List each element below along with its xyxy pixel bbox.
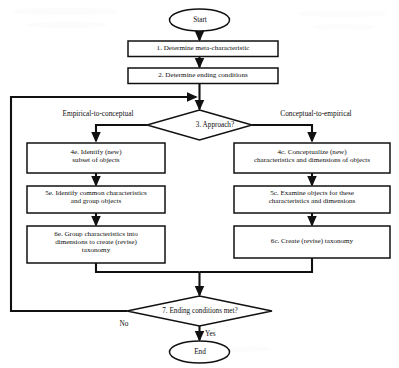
edge-approach-to-step4c	[252, 125, 312, 141]
process-step2-label: 2. Determine ending conditions	[128, 72, 278, 80]
edge-step6c-to-merge	[200, 258, 313, 272]
process-step6c-label: 6c. Create (revise) taxonomy	[236, 238, 388, 246]
terminator-start-label: Start	[170, 16, 230, 24]
process-step5c-line2: characteristics and dimensions	[236, 198, 388, 206]
edge-label-yes: Yes	[205, 330, 229, 338]
process-step4c-line2: characteristics and dimensions of object…	[236, 157, 388, 165]
process-step6e-label: 6e. Group characteristics into dimension…	[29, 231, 163, 255]
process-step4c-label: 4c. Conceptualize (new) characteristics …	[236, 149, 388, 165]
edge-approach-to-step4e	[96, 125, 147, 141]
process-step1-label: 1. Determine meta-characteristic	[128, 45, 278, 53]
flowchart-canvas: Start 1. Determine meta-characteristic 2…	[0, 0, 399, 368]
terminator-end-label: End	[170, 348, 230, 356]
process-step5c-label: 5c. Examine objects for these characteri…	[236, 190, 388, 206]
process-step6e-line3: taxonomy	[29, 247, 163, 255]
decision-approach-label: 3. Approach?	[170, 121, 260, 129]
process-step4e-label: 4e. Identify (new) subset of objects	[29, 149, 163, 165]
edge-label-no: No	[112, 320, 136, 328]
process-step4e-line2: subset of objects	[29, 157, 163, 165]
edge-step6e-to-merge	[96, 263, 200, 272]
edge-label-conceptual-to-empirical: Conceptual-to-empirical	[252, 110, 380, 118]
process-step5e-line2: and group objects	[29, 198, 163, 206]
process-step5e-label: 5e. Identify common characteristics and …	[29, 190, 163, 206]
edge-label-empirical-to-conceptual: Empirical-to-conceptual	[36, 110, 160, 118]
decision-ending-label: 7. Ending conditions met?	[145, 307, 255, 315]
